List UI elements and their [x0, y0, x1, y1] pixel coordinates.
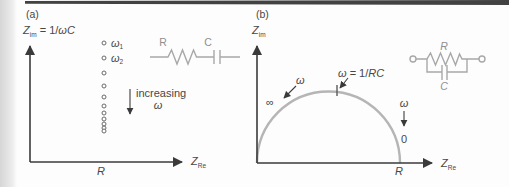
page-left-edge-strip [0, 0, 17, 187]
impedance-points [102, 41, 106, 133]
panel-b-r-label: R [395, 165, 403, 177]
left-terminal [410, 56, 416, 62]
page-top-rule [25, 0, 509, 5]
impedance-point [102, 41, 106, 45]
omega2-label: ω2 [111, 52, 124, 65]
panel-b-x-axis-label: ZRe [440, 157, 456, 171]
omega-left-symbol: ω [296, 74, 305, 86]
series-rc-wire [150, 50, 240, 64]
peak-label: ω = 1/RC [338, 67, 384, 79]
semicircle-curve [257, 92, 400, 164]
impedance-point [102, 71, 106, 75]
panel-a-y-axis-label: Zim = 1/ωC [22, 24, 75, 38]
panel-a-tag: (a) [26, 8, 39, 20]
zero-label: 0 [401, 133, 407, 145]
panel-a-x-axis-label: ZRe [190, 155, 206, 169]
panel-a: (a) Zim = 1/ωC ZRe R ω1 ω2 increasing ω … [22, 8, 240, 177]
parallel-rc-circuit: R C [410, 40, 485, 92]
impedance-point [102, 56, 106, 60]
impedance-point [102, 122, 106, 126]
right-terminal [479, 56, 485, 62]
series-rc-circuit: R C [150, 36, 240, 64]
impedance-point [102, 104, 106, 108]
panel-b-tag: (b) [256, 8, 269, 20]
impedance-point [102, 111, 106, 115]
panel-b-y-axis-label: Zim [251, 24, 266, 38]
peak-arrow [340, 78, 348, 88]
panel-a-r-label: R [97, 165, 105, 177]
panel-b: (b) Zim ZRe R ω = 1/RC ω ∞ ω 0 R C [251, 8, 485, 177]
parallel-capacitor-label: C [440, 80, 448, 92]
series-resistor-label: R [159, 36, 167, 48]
omega-right-symbol: ω [400, 97, 409, 109]
parallel-rc-wire [416, 53, 479, 80]
omega-left-arrow [284, 86, 296, 98]
omega1-label: ω1 [111, 37, 124, 50]
infinity-label: ∞ [266, 96, 274, 108]
parallel-resistor-label: R [440, 40, 448, 52]
impedance-point [102, 129, 106, 133]
increasing-omega-symbol: ω [154, 99, 163, 111]
impedance-point [102, 84, 106, 88]
figure-nyquist-impedance-plots: (a) Zim = 1/ωC ZRe R ω1 ω2 increasing ω … [0, 0, 509, 187]
impedance-point [102, 117, 106, 121]
series-capacitor-label: C [204, 36, 212, 48]
impedance-point [102, 95, 106, 99]
increasing-omega-text: increasing [136, 87, 186, 99]
